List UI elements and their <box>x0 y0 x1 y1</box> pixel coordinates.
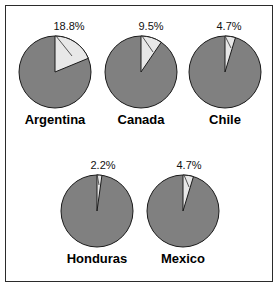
pie-country-label: Mexico <box>140 251 226 266</box>
pie-country-label: Chile <box>182 112 268 127</box>
pie-value-label: 2.2% <box>60 159 146 171</box>
pie-panel-mexico: 4.7% Mexico <box>140 159 226 267</box>
figure-panel: 18.8% Argentina 9.5% Canada 4.7% <box>5 5 273 282</box>
pie-chart-grid: 18.8% Argentina 9.5% Canada 4.7% <box>6 6 272 281</box>
pie-value-label: 4.7% <box>146 159 232 171</box>
pie-panel-argentina: 18.8% Argentina <box>12 20 98 128</box>
pie-country-label: Honduras <box>54 251 140 266</box>
pie-country-label: Argentina <box>12 112 98 127</box>
pie-panel-chile: 4.7% Chile <box>182 20 268 128</box>
pie-panel-honduras: 2.2% Honduras <box>54 159 140 267</box>
pie-panel-canada: 9.5% Canada <box>98 20 184 128</box>
pie-country-label: Canada <box>98 112 184 127</box>
pie-value-label: 4.7% <box>186 20 272 32</box>
